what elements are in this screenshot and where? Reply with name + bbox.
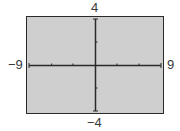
viewing-window (26, 16, 164, 114)
xmin-label: −9 (8, 58, 23, 71)
axes (27, 17, 163, 113)
ymax-label: 4 (91, 1, 98, 14)
ymin-label: −4 (87, 116, 102, 129)
xmax-label: 9 (167, 58, 174, 71)
